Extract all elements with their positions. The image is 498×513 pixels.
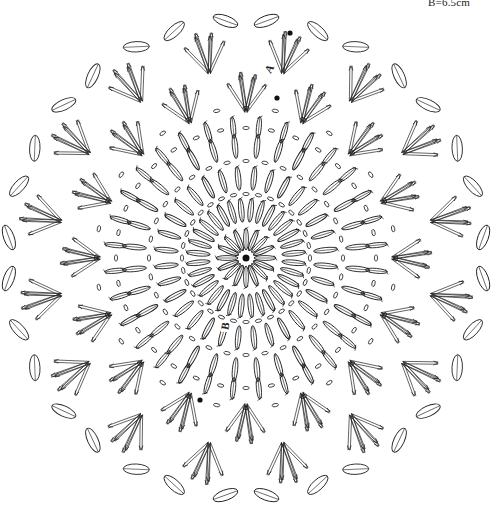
dc-stitch: [185, 309, 205, 332]
dc-stitch: [215, 256, 238, 261]
dc-stitch: [187, 238, 212, 250]
chain-stitch: [154, 292, 159, 299]
chain-stitch: [154, 217, 159, 224]
dc-stitch: [176, 131, 191, 154]
outer-petal: [0, 265, 32, 343]
chain-stitch: [307, 267, 311, 274]
fan-cluster: [182, 442, 223, 485]
dc-stitch: [247, 294, 255, 319]
chain-stitch: [217, 128, 224, 132]
dc-stitch: [191, 273, 216, 289]
dc-stitch: [153, 246, 178, 254]
dc-stitch: [250, 262, 270, 282]
chain-stitch: [159, 380, 166, 386]
chain-stitch: [243, 126, 249, 129]
fan-cluster: [293, 392, 331, 432]
crochet-chart: AB: [0, 0, 498, 513]
dc-stitch: [205, 209, 225, 232]
dc-stitch: [185, 259, 210, 267]
chain-stitch: [261, 351, 268, 355]
dc-stitch: [254, 292, 266, 317]
outer-petal: [253, 12, 331, 44]
chain-stitch: [190, 290, 196, 297]
dc-stitch: [187, 266, 212, 278]
chain-stitch: [363, 304, 368, 311]
dc-stitch: [313, 262, 338, 270]
chain-stitch: [207, 202, 214, 208]
dc-stitch: [261, 289, 277, 314]
chain-stitch: [311, 323, 318, 330]
chain-stitch: [255, 319, 262, 323]
fan-cluster: [161, 85, 199, 125]
dc-stitch: [360, 290, 383, 301]
dc-stitch: [261, 203, 277, 228]
dc-stitch: [148, 177, 171, 197]
chain-stitch: [218, 314, 225, 319]
chain-stitch: [170, 147, 177, 153]
chain-stitch: [296, 290, 302, 297]
dc-stitch: [234, 165, 242, 190]
chain-stitch: [278, 202, 285, 208]
chain-stitch: [272, 109, 279, 113]
chain-stitch: [341, 255, 344, 261]
dc-stitch: [322, 177, 345, 197]
chain-stitch: [296, 219, 302, 226]
chain-stitch: [268, 128, 275, 132]
chain-stitch: [97, 284, 101, 291]
dc-stitch: [172, 197, 195, 217]
chain-stitch: [326, 130, 333, 136]
dc-stitch: [305, 212, 330, 228]
chain-stitch: [170, 363, 177, 369]
dc-stitch: [277, 227, 302, 243]
chain-stitch: [268, 383, 275, 387]
chain-stitch: [118, 338, 124, 345]
dc-stitch: [280, 266, 305, 278]
chain-stitch: [181, 267, 185, 274]
chain-stitch: [363, 205, 368, 212]
chain-stitch: [116, 280, 120, 287]
dc-stitch: [237, 294, 245, 319]
chain-stitch: [180, 255, 183, 261]
chain-stitch: [205, 166, 212, 171]
fan-cluster: [380, 307, 420, 344]
chain-stitch: [335, 163, 342, 170]
fan-cluster: [109, 360, 144, 395]
chain-stitch: [335, 347, 342, 354]
dc-stitch: [226, 292, 238, 317]
dc-stitch: [156, 228, 181, 240]
chain-stitch: [308, 255, 311, 261]
dc-stitch: [250, 234, 270, 254]
chain-stitch: [255, 193, 262, 197]
fan-cluster: [401, 361, 441, 396]
fan-cluster: [184, 33, 226, 75]
chain-stitch: [230, 193, 237, 197]
chain-stitch: [267, 314, 274, 319]
outer-petal: [460, 173, 492, 251]
outer-petal: [29, 354, 78, 421]
dc-stitch: [176, 363, 191, 386]
chain-stitch: [391, 225, 395, 232]
fan-cluster: [347, 413, 383, 453]
dc-stitch: [277, 273, 302, 289]
chain-stitch: [149, 273, 153, 280]
dc-stitch: [278, 120, 289, 143]
chain-stitch: [207, 308, 214, 314]
dc-stitch: [267, 209, 287, 232]
dc-stitch: [226, 199, 238, 224]
chain-stitch: [371, 229, 375, 236]
dc-stitch: [276, 175, 292, 200]
dc-stitch: [263, 322, 275, 347]
dc-stitch: [163, 212, 188, 228]
dc-stitch: [185, 184, 205, 207]
chain-stitch: [218, 196, 225, 201]
chain-stitch: [151, 163, 158, 170]
chain-stitch: [123, 205, 128, 212]
center-dot: [243, 255, 250, 262]
dc-stitch: [307, 334, 327, 357]
chain-stitch: [135, 327, 141, 334]
dc-stitch: [215, 203, 231, 228]
chain-stitch: [135, 182, 141, 189]
dc-stitch: [163, 288, 188, 304]
chain-stitch: [147, 255, 150, 261]
fan-cluster: [227, 72, 267, 113]
